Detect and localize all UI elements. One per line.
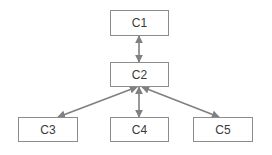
node-c2-label: C2 [132, 69, 148, 81]
node-c1[interactable]: C1 [110, 10, 169, 36]
node-c2[interactable]: C2 [110, 62, 169, 87]
node-c4[interactable]: C4 [110, 117, 169, 142]
node-c3[interactable]: C3 [18, 117, 78, 142]
node-c1-label: C1 [132, 17, 148, 29]
node-c5[interactable]: C5 [193, 117, 253, 142]
edge-c2-c5 [142, 87, 219, 117]
node-c4-label: C4 [132, 124, 148, 136]
edge-c2-c3 [58, 87, 137, 117]
node-c5-label: C5 [215, 124, 231, 136]
diagram-canvas: C1 C2 C3 C4 C5 [0, 0, 272, 155]
node-c3-label: C3 [40, 124, 56, 136]
